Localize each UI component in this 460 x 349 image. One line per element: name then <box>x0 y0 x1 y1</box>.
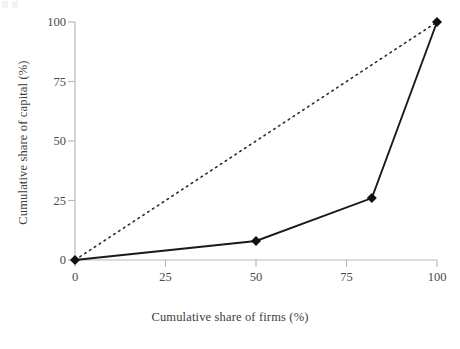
x-tick-label-25: 25 <box>141 270 191 285</box>
y-tick-label-75: 75 <box>26 74 66 89</box>
data-point-marker <box>367 193 377 203</box>
data-point-marker <box>251 236 261 246</box>
data-point-marker <box>432 17 442 27</box>
x-axis-tick-labels: 0 25 50 75 100 <box>0 270 460 294</box>
y-tick-label-25: 25 <box>26 193 66 208</box>
x-axis-title: Cumulative share of firms (%) <box>0 310 460 325</box>
x-tick-label-100: 100 <box>412 270 460 285</box>
y-axis-title: Cumulative share of capital (%) <box>16 33 31 253</box>
x-tick-label-0: 0 <box>50 270 100 285</box>
y-tick-label-50: 50 <box>26 134 66 149</box>
plot-area <box>0 0 460 349</box>
y-tick-label-100: 100 <box>26 15 66 30</box>
y-axis-ticks <box>68 22 75 260</box>
y-tick-label-0: 0 <box>26 253 66 268</box>
equality-line-series <box>75 22 437 260</box>
data-point-marker <box>70 255 80 265</box>
lorenz-curve-chart: 100 75 50 25 0 0 25 50 75 100 Cumulative… <box>0 0 460 349</box>
x-tick-label-75: 75 <box>322 270 372 285</box>
x-tick-label-50: 50 <box>231 270 281 285</box>
x-axis-ticks <box>75 260 437 267</box>
